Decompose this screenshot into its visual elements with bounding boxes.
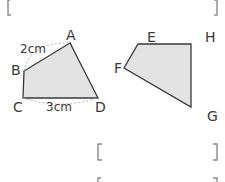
vertex-label-a: A bbox=[66, 27, 76, 43]
bracket-close bbox=[213, 178, 217, 182]
figure-abcd: A B C D 2cm 3cm bbox=[11, 27, 106, 115]
vertex-label-b: B bbox=[11, 62, 21, 78]
vertex-label-h: H bbox=[205, 29, 216, 45]
bracket-open bbox=[98, 178, 101, 182]
bracket-close bbox=[213, 144, 217, 160]
answer-bracket-bottom bbox=[98, 178, 217, 182]
answer-bracket-middle[interactable] bbox=[98, 144, 217, 160]
figure-efgh: E H F G bbox=[114, 29, 218, 124]
bracket-open bbox=[98, 144, 102, 160]
vertex-label-g: G bbox=[207, 108, 218, 124]
vertex-label-e: E bbox=[147, 29, 156, 45]
measure-ab: 2cm bbox=[20, 42, 46, 56]
bracket-close bbox=[214, 0, 217, 15]
vertex-label-c: C bbox=[13, 99, 23, 115]
measure-cd: 3cm bbox=[46, 100, 72, 114]
bracket-open bbox=[8, 0, 11, 15]
vertex-label-d: D bbox=[95, 99, 106, 115]
diagram-canvas: A B C D 2cm 3cm E H F G bbox=[0, 0, 225, 182]
answer-bracket-top bbox=[8, 0, 217, 15]
vertex-label-f: F bbox=[114, 60, 122, 76]
quadrilateral-efgh bbox=[124, 44, 191, 107]
